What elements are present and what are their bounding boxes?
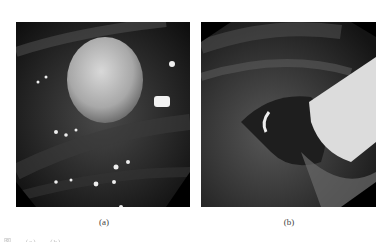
- panel-label-b: (b): [269, 217, 309, 227]
- panel-label-a: (a): [84, 217, 124, 227]
- endoscopy-image-a: [16, 22, 190, 207]
- endoscopy-image-b: [201, 22, 376, 207]
- figure-caption: 图 ... (a) ... (b) ...: [4, 236, 386, 242]
